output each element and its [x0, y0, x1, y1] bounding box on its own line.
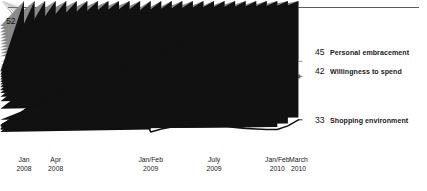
x-tick-line2: 2008 [34, 164, 78, 173]
chart-figure: 52 43 43 45 Personal embracement 42 Will… [0, 0, 427, 191]
x-tick-3: July2009 [192, 155, 236, 173]
x-tick-line1: Jan/Feb [129, 155, 173, 164]
x-tick-line2: 2010 [276, 164, 320, 173]
x-tick-line2: 2009 [129, 164, 173, 173]
series-label-shopping-environment: Shopping environment [330, 117, 408, 125]
end-value-shopping-environment: 33 [315, 115, 325, 125]
end-value-willingness-to-spend: 42 [315, 66, 325, 76]
x-tick-2: Jan/Feb2009 [129, 155, 173, 173]
x-tick-line1: July [192, 155, 236, 164]
x-tick-1: Apr2008 [34, 155, 78, 173]
x-tick-line1: Apr [34, 155, 78, 164]
series-label-willingness-to-spend: Willingness to spend [330, 68, 402, 76]
x-tick-line2: 2009 [192, 164, 236, 173]
x-tick-line1: March [276, 155, 320, 164]
start-value-personal-embracement: 52 [6, 16, 16, 26]
series-label-personal-embracement: Personal embracement [330, 49, 409, 57]
end-value-personal-embracement: 45 [315, 47, 325, 57]
start-value-shopping-environment: 43 [6, 58, 16, 68]
x-tick-5: March2010 [276, 155, 320, 173]
start-value-willingness-to-spend: 43 [38, 58, 48, 68]
label-connectors [298, 61, 302, 119]
